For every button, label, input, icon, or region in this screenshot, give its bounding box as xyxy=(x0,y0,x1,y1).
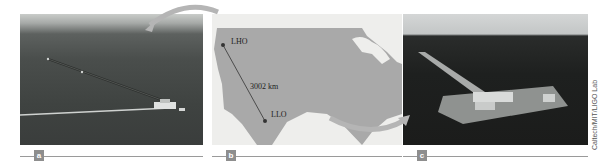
arrow-to-livingston xyxy=(330,118,405,130)
connector-arrows xyxy=(0,0,610,167)
panel-a-footer: a xyxy=(20,150,203,162)
panel-c-footer: c xyxy=(403,150,588,162)
panel-label-c: c xyxy=(417,150,427,161)
panel-b-footer: b xyxy=(212,150,402,162)
arrow-to-hanford xyxy=(150,7,218,25)
photo-credit: Caltech/MIT/LIGO Lab xyxy=(591,80,598,150)
panel-label-a: a xyxy=(34,150,44,161)
panel-label-b: b xyxy=(226,150,236,161)
